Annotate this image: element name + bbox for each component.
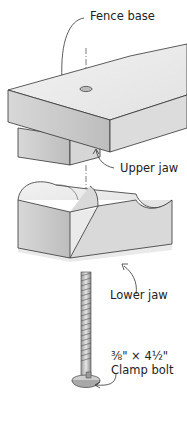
label-lower-jaw: Lower jaw <box>110 289 168 302</box>
label-upper-jaw: Upper jaw <box>120 162 178 175</box>
bolt-hole <box>80 86 92 91</box>
label-bolt-size: ⅜" × 4½" <box>111 350 168 363</box>
lower-jaw <box>18 182 172 262</box>
label-fence-base: Fence base <box>90 10 155 23</box>
label-clamp-bolt: Clamp bolt <box>111 364 173 377</box>
clamp-bolt <box>72 272 100 388</box>
